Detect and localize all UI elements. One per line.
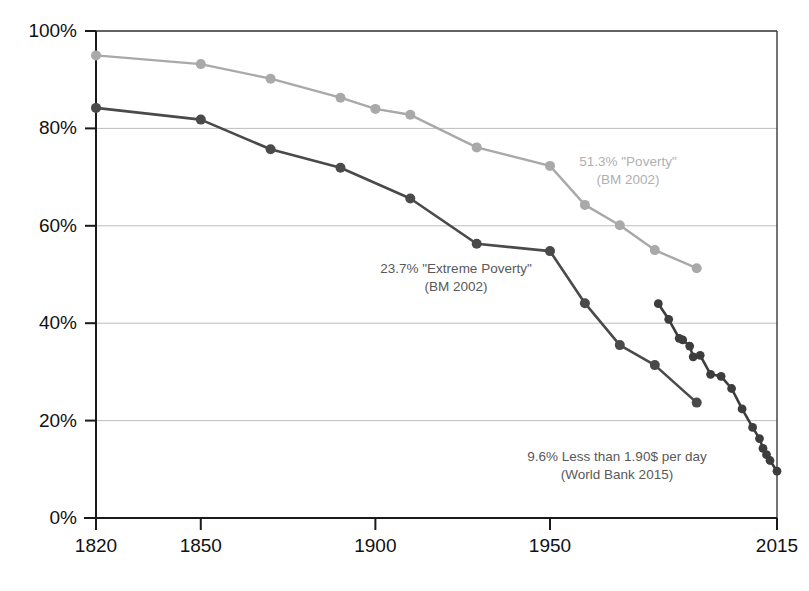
y-tick-label-40: 40%	[39, 312, 77, 333]
data-point	[748, 423, 757, 432]
x-tick-label-1900: 1900	[354, 535, 396, 556]
data-point	[706, 370, 715, 379]
y-axis-labels: 0%20%40%60%80%100%	[28, 20, 77, 528]
y-tick-label-60: 60%	[39, 215, 77, 236]
y-tick-label-100: 100%	[28, 20, 77, 41]
x-axis-labels: 18201850190019502015	[75, 535, 798, 556]
x-tick-label-1850: 1850	[180, 535, 222, 556]
data-point	[685, 342, 694, 351]
data-point	[266, 144, 276, 154]
data-point	[678, 335, 687, 344]
extreme-poverty-annotation: 23.7% "Extreme Poverty"(BM 2002)	[380, 261, 532, 294]
data-point	[472, 239, 482, 249]
x-tick-label-2015: 2015	[756, 535, 798, 556]
data-point	[727, 384, 736, 393]
data-point	[696, 351, 705, 360]
x-tick-label-1950: 1950	[529, 535, 571, 556]
data-point	[580, 200, 590, 210]
poverty-annotation-line1: 51.3% "Poverty"	[579, 154, 677, 169]
data-point	[692, 398, 702, 408]
data-point	[266, 74, 276, 84]
data-point	[405, 194, 415, 204]
data-point	[615, 220, 625, 230]
data-point	[580, 298, 590, 308]
poverty-rate-chart: 0%20%40%60%80%100% 18201850190019502015 …	[0, 0, 809, 591]
data-point	[650, 245, 660, 255]
series-line-2	[658, 304, 777, 472]
y-tick-label-20: 20%	[39, 410, 77, 431]
data-point	[196, 115, 206, 125]
data-point	[196, 59, 206, 69]
data-point	[91, 103, 101, 113]
world-bank-annotation: 9.6% Less than 1.90$ per day(World Bank …	[527, 449, 707, 482]
poverty-annotation-line2: (BM 2002)	[596, 172, 659, 187]
y-tick-label-0: 0%	[50, 507, 78, 528]
data-point	[336, 163, 346, 173]
data-point	[755, 434, 764, 443]
extreme-poverty-annotation-line1: 23.7% "Extreme Poverty"	[380, 261, 532, 276]
data-point	[615, 340, 625, 350]
gridlines-group	[96, 31, 777, 421]
series-1	[91, 103, 702, 408]
x-tick-label-1820: 1820	[75, 535, 117, 556]
data-point	[545, 161, 555, 171]
data-point	[773, 467, 782, 476]
data-point	[370, 104, 380, 114]
world-bank-annotation-line2: (World Bank 2015)	[561, 467, 673, 482]
data-point	[717, 372, 726, 381]
data-point	[692, 263, 702, 273]
data-point	[472, 142, 482, 152]
data-point	[738, 405, 747, 414]
data-point	[545, 246, 555, 256]
data-point	[650, 360, 660, 370]
y-tick-label-80: 80%	[39, 117, 77, 138]
annotations-group: 51.3% "Poverty"(BM 2002)23.7% "Extreme P…	[380, 154, 707, 482]
poverty-annotation: 51.3% "Poverty"(BM 2002)	[579, 154, 677, 187]
extreme-poverty-annotation-line2: (BM 2002)	[424, 279, 487, 294]
data-point	[654, 299, 663, 308]
chart-canvas: 0%20%40%60%80%100% 18201850190019502015 …	[0, 0, 809, 591]
data-point	[766, 456, 775, 465]
data-point	[91, 50, 101, 60]
data-point	[405, 110, 415, 120]
series-line-1	[96, 108, 697, 403]
data-point	[336, 93, 346, 103]
data-point	[664, 315, 673, 324]
world-bank-annotation-line1: 9.6% Less than 1.90$ per day	[527, 449, 707, 464]
